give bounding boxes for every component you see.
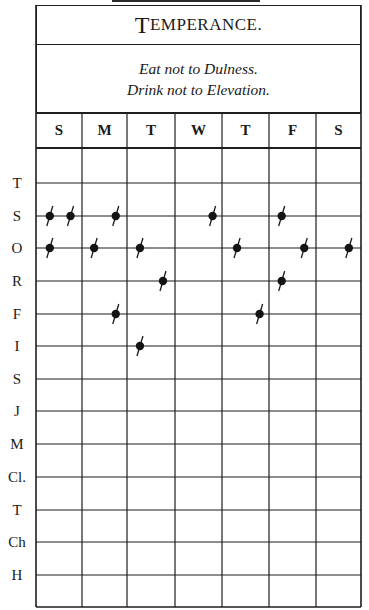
virtue-grid (0, 0, 369, 610)
virtue-label: S (0, 208, 34, 224)
day-label: T (222, 113, 269, 148)
fault-mark-dot (233, 244, 241, 252)
fault-mark (255, 304, 263, 324)
day-label: S (316, 113, 361, 148)
fault-mark-dot (46, 244, 54, 252)
virtue-label: I (0, 338, 34, 354)
fault-mark (112, 206, 120, 226)
virtue-label: T (0, 502, 34, 518)
fault-mark-dot (46, 212, 54, 220)
virtue-label: R (0, 273, 34, 289)
fault-mark-dot (345, 244, 353, 252)
fault-mark (208, 206, 216, 226)
fault-mark-dot (300, 244, 308, 252)
fault-mark-dot (159, 277, 167, 285)
fault-mark (90, 238, 98, 258)
fault-mark-dot (112, 310, 120, 318)
virtue-label: M (0, 436, 34, 452)
fault-mark (136, 336, 144, 356)
virtue-label: Ch (0, 534, 34, 550)
virtue-label: S (0, 371, 34, 387)
day-label: F (269, 113, 316, 148)
fault-mark-dot (90, 244, 98, 252)
day-label: S (36, 113, 82, 148)
fault-mark (345, 238, 353, 258)
virtue-label: H (0, 567, 34, 583)
virtue-label: F (0, 306, 34, 322)
fault-mark (66, 206, 74, 226)
fault-mark-dot (112, 212, 120, 220)
fault-mark-dot (66, 212, 74, 220)
fault-mark-dot (136, 342, 144, 350)
fault-mark (277, 206, 285, 226)
fault-mark (233, 238, 241, 258)
virtue-label: Cl. (0, 469, 34, 485)
fault-mark-dot (277, 277, 285, 285)
fault-mark (112, 304, 120, 324)
virtue-label: J (0, 403, 34, 419)
virtue-label: T (0, 175, 34, 191)
fault-mark-dot (136, 244, 144, 252)
fault-mark (159, 271, 167, 291)
fault-mark-dot (255, 310, 263, 318)
day-label: T (127, 113, 175, 148)
fault-mark (46, 206, 54, 226)
virtue-label: O (0, 240, 34, 256)
fault-mark (277, 271, 285, 291)
day-label: M (82, 113, 127, 148)
fault-mark (300, 238, 308, 258)
fault-mark (46, 238, 54, 258)
fault-mark-dot (208, 212, 216, 220)
fault-mark (136, 238, 144, 258)
day-label: W (175, 113, 222, 148)
fault-mark-dot (277, 212, 285, 220)
